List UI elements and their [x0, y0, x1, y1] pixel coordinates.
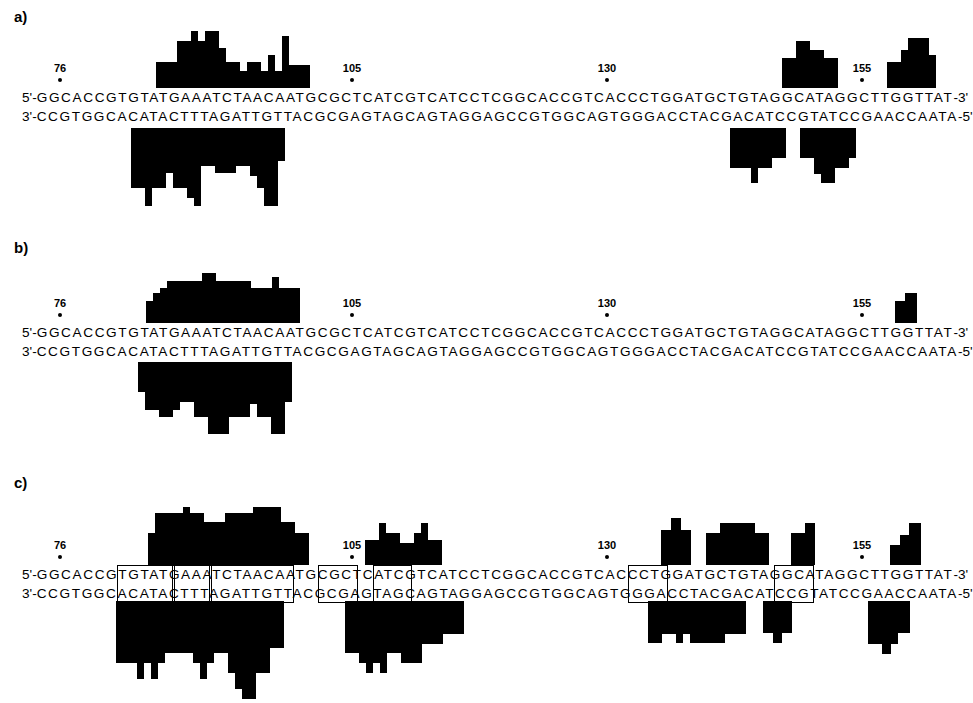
histogram-bar: [683, 601, 690, 634]
histogram-bar: [214, 601, 228, 653]
position-tick-a-105: 105: [332, 63, 372, 82]
tick-dot-icon: [58, 313, 62, 317]
histogram-c-3: [661, 518, 815, 565]
histogram-a-4: [730, 128, 856, 183]
strand-5prime-label: -5': [958, 109, 973, 124]
strand-3prime-label: 3'-: [22, 344, 37, 359]
tick-dot-icon: [350, 555, 354, 559]
bottom-strand-a: 3'-CCGTGGCACATACTTTAGATTGTTACGCGAGTAGCAG…: [22, 109, 973, 124]
position-tick-c-130: 130: [587, 540, 627, 559]
tick-label: 130: [587, 63, 627, 74]
top-strand-bases: GGCACCGTGTATGAAATCTAACAATGCGCTCATCGTCATC…: [37, 325, 954, 340]
histogram-bar: [202, 273, 216, 323]
histogram-bar: [868, 601, 882, 644]
histogram-bar: [156, 62, 177, 88]
histogram-bar: [671, 518, 681, 565]
panel-label-a: a): [14, 8, 27, 25]
histogram-bar: [145, 128, 152, 206]
histogram-bar: [275, 71, 282, 88]
position-tick-a-130: 130: [587, 63, 627, 82]
histogram-bar: [887, 62, 901, 88]
histogram-bar: [173, 128, 187, 188]
histogram-bar: [763, 601, 773, 633]
histogram-bar: [250, 128, 257, 176]
tick-label: 130: [587, 298, 627, 309]
histogram-bar: [706, 533, 720, 565]
histogram-bar: [676, 601, 683, 643]
bottom-strand-bases: CCGTGGCACATACTTTAGATTGTTACGCGAGTAGCAGTAG…: [37, 109, 958, 124]
histogram-bar: [225, 513, 253, 565]
histogram-bar: [882, 601, 891, 654]
histogram-bar: [167, 281, 202, 323]
histogram-bar: [345, 601, 359, 653]
histogram-bar: [165, 601, 193, 653]
histogram-bar: [400, 543, 414, 565]
tick-dot-icon: [350, 313, 354, 317]
tick-label: 155: [842, 540, 882, 551]
tick-label: 105: [332, 63, 372, 74]
histogram-c-6: [345, 601, 464, 673]
top-strand-bases: GGCACCGTGTATGAAATCTAACAATGCGCTCATCGTCATC…: [37, 90, 954, 105]
histogram-c-9: [868, 601, 910, 654]
strand-3prime-label: -3': [953, 90, 968, 105]
histogram-bar: [422, 601, 443, 644]
histogram-bar: [891, 601, 898, 644]
histogram-a-1: [156, 31, 310, 88]
position-tick-b-105: 105: [332, 298, 372, 317]
position-tick-c-155: 155: [842, 540, 882, 559]
histogram-bar: [281, 522, 295, 565]
sequence-box-1: [117, 565, 175, 603]
histogram-bar: [240, 71, 247, 88]
sequence-box-2: [172, 565, 211, 603]
histogram-bar: [271, 362, 285, 434]
sequence-box-5: [373, 565, 412, 603]
histogram-bar: [782, 58, 796, 88]
tick-label: 105: [332, 298, 372, 309]
histogram-bar: [272, 277, 279, 323]
histogram-bar: [131, 128, 145, 188]
position-tick-b-130: 130: [587, 298, 627, 317]
histogram-bar: [278, 128, 285, 161]
sequence-box-7: [774, 565, 813, 603]
histogram-b-1: [146, 273, 300, 323]
histogram-bar: [250, 362, 257, 404]
histogram-bar: [194, 362, 208, 417]
histogram-c-7: [648, 601, 746, 643]
tick-dot-icon: [860, 555, 864, 559]
strand-5prime-label: 5'-: [22, 325, 37, 340]
histogram-bar: [901, 50, 908, 88]
histogram-bar: [890, 545, 900, 565]
histogram-bar: [772, 128, 786, 158]
histogram-bar: [226, 62, 240, 88]
position-tick-c-76: 76: [40, 540, 80, 559]
histogram-bar: [443, 601, 464, 634]
histogram-bar: [187, 128, 194, 198]
histogram-bar: [421, 523, 428, 565]
histogram-bar: [380, 601, 387, 673]
histogram-c-8: [763, 601, 792, 643]
panel-label-b: b): [14, 239, 28, 256]
strand-3prime-label: 3'-: [22, 586, 37, 601]
histogram-bar: [909, 523, 921, 565]
histogram-bar: [849, 128, 856, 158]
histogram-bar: [159, 362, 173, 417]
histogram-bar: [295, 533, 309, 565]
histogram-bar: [773, 601, 782, 643]
histogram-bar: [191, 31, 198, 88]
histogram-bar: [720, 523, 755, 565]
histogram-bar: [282, 36, 289, 88]
histogram-bar: [228, 601, 235, 673]
top-strand-a: 5'-GGCACCGTGTATGAAATCTAACAATGCGCTCATCGTC…: [22, 90, 968, 105]
histogram-bar: [730, 128, 751, 168]
histogram-bar: [379, 523, 386, 565]
tick-dot-icon: [605, 555, 609, 559]
strand-3prime-label: -3': [953, 567, 968, 582]
histogram-bar: [251, 288, 272, 323]
histogram-bar: [268, 55, 275, 88]
bottom-strand-b: 3'-CCGTGGCACATACTTTAGATTGTTACGCGAGTAGCAG…: [22, 344, 973, 359]
tick-dot-icon: [350, 78, 354, 82]
histogram-bar: [359, 601, 366, 663]
histogram-bar: [264, 128, 278, 206]
histogram-bar: [257, 362, 271, 417]
histogram-bar: [366, 601, 373, 673]
